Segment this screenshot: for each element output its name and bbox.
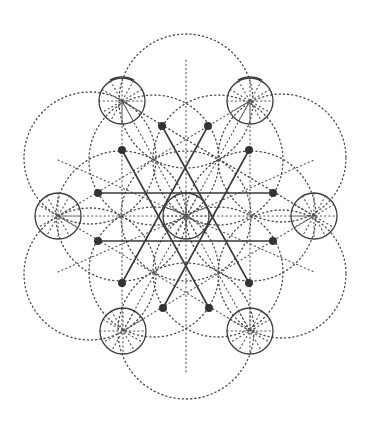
node-dot [94,189,102,197]
node-dot [204,122,212,130]
dotted-grid-lines [58,60,314,372]
node-dot [245,146,253,154]
node-dot [118,279,126,287]
node-dot [158,122,166,130]
node-dot [159,304,167,312]
node-dot [94,237,102,245]
node-dot [269,237,277,245]
star-line [163,150,249,308]
star-line [122,126,208,283]
metatron-diagram [0,0,371,431]
large-dotted-circle [218,94,346,222]
node-dot [269,189,277,197]
node-dot [205,304,213,312]
node-dot [118,146,126,154]
large-dotted-circle [24,208,156,340]
star-line [122,150,209,308]
large-dotted-circle [218,210,346,338]
node-dot [245,279,253,287]
large-dotted-circle [24,92,156,224]
